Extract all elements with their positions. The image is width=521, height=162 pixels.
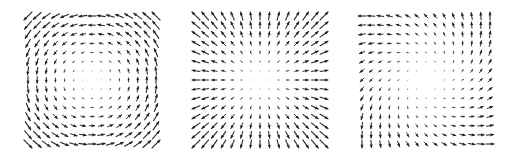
vector-arrow	[240, 114, 243, 119]
vector-arrow	[461, 13, 464, 20]
vector-arrow	[479, 40, 482, 46]
vector-arrow	[286, 21, 290, 28]
vector-arrow	[33, 12, 42, 19]
vector-arrow	[311, 140, 318, 149]
vector-arrow	[479, 78, 483, 82]
vector-arrow	[268, 60, 269, 62]
vector-arrow	[90, 52, 94, 54]
vector-arrow	[125, 32, 131, 37]
vector-arrow	[240, 41, 243, 46]
vector-arrow	[377, 24, 384, 27]
vector-arrow	[424, 133, 428, 137]
vector-arrow	[221, 79, 226, 81]
vector-arrow	[268, 123, 271, 129]
vector-arrow	[452, 32, 454, 37]
vector-arrow	[286, 88, 290, 90]
vector-arrow	[277, 114, 280, 119]
vector-arrow	[311, 106, 318, 110]
vector-arrow	[144, 31, 150, 38]
vector-arrow	[370, 87, 373, 91]
vector-arrow	[294, 140, 299, 149]
vector-arrow	[416, 97, 417, 99]
quiver-plot-rotation	[22, 10, 162, 150]
vector-arrow	[221, 31, 226, 37]
vector-arrow	[469, 124, 475, 127]
vector-arrow	[360, 78, 364, 82]
vector-arrow	[379, 105, 381, 110]
vector-arrow	[100, 98, 102, 99]
vector-arrow	[201, 131, 208, 138]
vector-arrow	[54, 78, 56, 83]
vector-arrow	[320, 78, 329, 81]
vector-arrow	[433, 133, 437, 136]
vector-arrow	[250, 114, 252, 119]
vector-arrow	[240, 79, 242, 80]
vector-arrow	[378, 61, 382, 63]
vector-arrow	[201, 140, 208, 149]
vector-arrow	[369, 60, 374, 63]
vector-arrow	[461, 97, 465, 99]
vector-arrow	[211, 12, 217, 21]
vector-arrow	[231, 106, 235, 110]
vector-arrow	[73, 88, 74, 90]
vector-arrow	[124, 14, 133, 19]
vector-arrow	[35, 104, 39, 111]
vector-arrow	[426, 89, 427, 90]
vector-arrow	[259, 60, 260, 62]
vector-arrow	[479, 50, 482, 56]
vector-arrow	[320, 88, 329, 91]
vector-arrow	[434, 32, 436, 36]
vector-arrow	[370, 113, 373, 119]
vector-arrow	[397, 114, 399, 118]
vector-arrow	[425, 52, 427, 54]
vector-arrow	[63, 60, 65, 64]
vector-arrow	[434, 98, 436, 99]
vector-arrow	[64, 87, 66, 91]
vector-arrow	[407, 106, 409, 109]
vector-arrow	[72, 51, 76, 53]
vector-arrow	[444, 60, 445, 62]
vector-arrow	[54, 50, 58, 55]
vector-arrow	[82, 70, 83, 71]
vector-arrow	[359, 60, 365, 63]
vector-arrow	[452, 13, 455, 19]
vector-arrow	[51, 14, 60, 19]
vector-arrow	[45, 59, 48, 65]
vector-arrow	[145, 76, 148, 83]
vector-arrow	[477, 142, 485, 145]
vector-arrow	[397, 123, 399, 128]
vector-arrow	[201, 51, 208, 55]
vector-arrow	[221, 131, 226, 138]
vector-arrow	[470, 78, 473, 81]
quiver-canvas	[22, 10, 162, 150]
vector-arrow	[407, 79, 408, 80]
vector-arrow	[303, 78, 309, 81]
vector-arrow	[451, 115, 455, 117]
vector-arrow	[470, 50, 472, 55]
vector-arrow	[45, 68, 48, 74]
vector-arrow	[72, 97, 74, 99]
vector-arrow	[479, 21, 482, 28]
vector-arrow	[452, 98, 455, 100]
vector-arrow	[443, 13, 446, 19]
vector-arrow	[27, 85, 30, 94]
vector-arrow	[488, 68, 492, 73]
vector-arrow	[277, 140, 280, 149]
vector-arrow	[152, 12, 161, 21]
vector-arrow	[250, 106, 252, 110]
vector-arrow	[240, 12, 243, 21]
vector-arrow	[360, 140, 363, 149]
vector-arrow	[240, 70, 242, 71]
vector-arrow	[63, 106, 67, 110]
vector-arrow	[470, 12, 473, 19]
vector-arrow	[369, 69, 373, 72]
vector-arrow	[277, 21, 280, 28]
vector-arrow	[51, 142, 60, 147]
vector-arrow	[106, 142, 115, 145]
vector-arrow	[88, 14, 97, 17]
vector-arrow	[24, 131, 31, 140]
vector-arrow	[145, 49, 149, 56]
vector-arrow	[470, 22, 473, 29]
vector-arrow	[115, 142, 124, 146]
vector-arrow	[361, 104, 364, 110]
